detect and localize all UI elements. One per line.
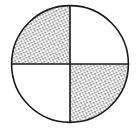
quadrant-bottom-left — [0, 64, 70, 128]
quadrant-bottom-right — [70, 64, 139, 128]
figure-container: Circle divided into four equal quadrants… — [0, 0, 139, 128]
quadrant-top-left — [0, 0, 70, 64]
quadrant-top-right — [70, 0, 139, 64]
fraction-circle-diagram: Circle divided into four equal quadrants… — [0, 0, 139, 128]
